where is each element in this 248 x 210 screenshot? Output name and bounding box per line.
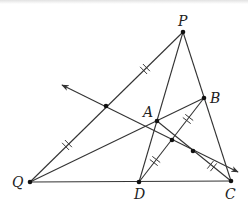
label-D: D (133, 186, 145, 202)
label-A: A (141, 104, 153, 120)
point-F (191, 149, 196, 154)
point-P (181, 30, 186, 35)
label-C: C (225, 186, 236, 202)
label-Q: Q (12, 174, 24, 190)
point-E (170, 138, 175, 143)
segment-QB (30, 98, 204, 182)
point-B (202, 96, 207, 101)
segment-QC (30, 181, 231, 182)
point-Q (28, 180, 33, 185)
point-A (155, 119, 160, 124)
segment-PC (183, 32, 231, 181)
label-B: B (209, 90, 220, 106)
label-P: P (177, 13, 188, 29)
diagram-canvas: P B A Q D C (0, 0, 248, 210)
point-M (104, 104, 109, 109)
geometry-diagram: P B A Q D C (0, 0, 248, 210)
point-D (137, 180, 142, 185)
point-C (229, 179, 234, 184)
